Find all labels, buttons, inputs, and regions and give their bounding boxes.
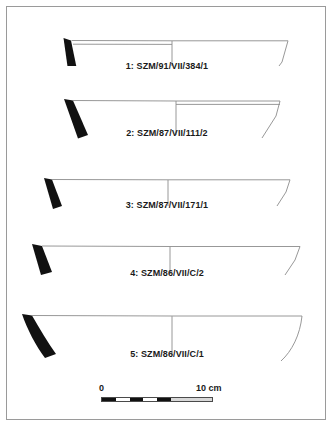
vessel-drawing-4 xyxy=(0,234,334,286)
vessel-figure-1: 1: SZM/91/VII/384/1 xyxy=(0,16,334,66)
vessel-label-4: 4: SZM/86/VII/C/2 xyxy=(0,268,334,278)
scale-segment-4 xyxy=(143,398,157,401)
vessel-label-3: 3: SZM/87/VII/171/1 xyxy=(0,200,334,210)
vessel-figure-3: 3: SZM/87/VII/171/1 xyxy=(0,166,334,214)
scale-bar xyxy=(101,397,213,402)
vessel-figure-4: 4: SZM/86/VII/C/2 xyxy=(0,234,334,286)
vessel-label-1: 1: SZM/91/VII/384/1 xyxy=(0,61,334,71)
scale-segment-1 xyxy=(102,398,116,401)
vessel-drawing-1 xyxy=(0,16,334,66)
vessel-label-5: 5: SZM/86/VII/C/1 xyxy=(0,349,334,359)
scale-segment-2 xyxy=(116,398,130,401)
pottery-profile-plate: 1: SZM/91/VII/384/1 2: SZM/87/VII/111/2 … xyxy=(0,0,334,429)
vessel-figure-2: 2: SZM/87/VII/111/2 xyxy=(0,88,334,140)
rim-outer-line-5 xyxy=(32,316,172,317)
scale-segment-5 xyxy=(157,398,171,401)
scale-segment-tail xyxy=(171,398,212,401)
scale-max-label: 10 cm xyxy=(196,383,222,393)
rim-outer-line-4 xyxy=(42,246,170,247)
vessel-label-2: 2: SZM/87/VII/111/2 xyxy=(0,128,334,138)
rim-outer-line-2 xyxy=(73,101,176,102)
vessel-figure-5: 5: SZM/86/VII/C/1 xyxy=(0,305,334,367)
scale-min-label: 0 xyxy=(99,383,104,393)
scale-segment-3 xyxy=(130,398,144,401)
